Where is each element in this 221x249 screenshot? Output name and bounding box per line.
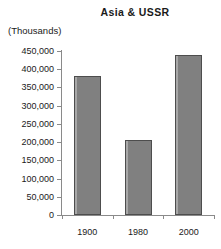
plot-area xyxy=(62,51,214,215)
bar-chart: Asia & USSR (Thousands) 450,000400,00035… xyxy=(0,0,221,249)
x-tick-mark xyxy=(62,215,63,219)
bar-highlight xyxy=(75,77,77,214)
y-tick-label: 250,000 xyxy=(0,120,54,129)
bar-highlight xyxy=(126,141,128,214)
x-tick-mark xyxy=(113,215,114,219)
y-tick-label: 0 xyxy=(0,211,54,220)
y-tick-label: 50,000 xyxy=(0,193,54,202)
x-axis-line xyxy=(61,215,214,216)
bar xyxy=(74,76,101,215)
bar-highlight xyxy=(176,56,178,214)
y-tick-label: 200,000 xyxy=(0,138,54,147)
x-tick-mark xyxy=(163,215,164,219)
x-tick-mark xyxy=(214,215,215,219)
bar xyxy=(175,55,202,215)
x-tick-label: 2000 xyxy=(169,228,209,237)
y-tick-label: 350,000 xyxy=(0,83,54,92)
y-tick-label: 400,000 xyxy=(0,65,54,74)
y-tick-label: 150,000 xyxy=(0,156,54,165)
bar xyxy=(125,140,152,215)
x-tick-label: 1980 xyxy=(118,228,158,237)
y-tick-label: 450,000 xyxy=(0,47,54,56)
x-tick-label: 1900 xyxy=(67,228,107,237)
y-axis-unit-label: (Thousands) xyxy=(8,25,61,36)
y-tick-label: 300,000 xyxy=(0,102,54,111)
y-tick-label: 100,000 xyxy=(0,175,54,184)
chart-title: Asia & USSR xyxy=(60,6,210,18)
